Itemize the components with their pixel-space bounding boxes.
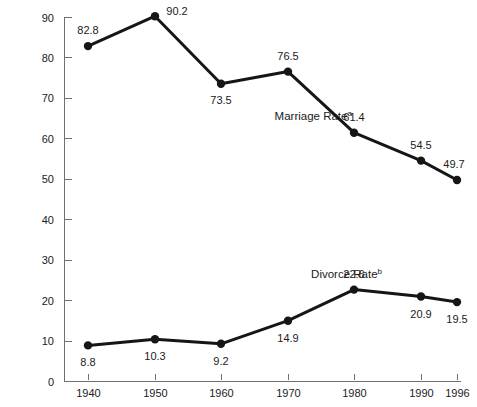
data-point-marker[interactable] [350, 285, 358, 293]
line-chart: 0102030405060708090194019501960197019801… [0, 0, 477, 407]
data-point-marker[interactable] [453, 176, 461, 184]
series-annotation-label: Marriage Ratea [275, 109, 353, 123]
data-point-marker[interactable] [284, 317, 292, 325]
y-axis-tick-label: 50 [42, 173, 54, 185]
data-point-label: 14.9 [277, 332, 298, 344]
data-point-label: 90.2 [166, 5, 187, 17]
data-point-marker[interactable] [84, 42, 92, 50]
y-axis-tick-label: 0 [48, 376, 54, 388]
data-point-label: 54.5 [410, 139, 431, 151]
data-point-marker[interactable] [350, 129, 358, 137]
y-axis-tick-label: 90 [42, 12, 54, 24]
data-point-marker[interactable] [217, 80, 225, 88]
x-axis-tick-label: 1996 [445, 387, 469, 399]
data-point-marker[interactable] [151, 12, 159, 20]
y-axis-tick-label: 10 [42, 335, 54, 347]
data-point-label: 82.8 [77, 24, 98, 36]
y-axis-tick-label: 70 [42, 92, 54, 104]
series-line-1 [88, 16, 457, 180]
x-axis-tick-label: 1970 [276, 387, 300, 399]
x-axis-tick-label: 1950 [143, 387, 167, 399]
data-point-label: 76.5 [277, 50, 298, 62]
data-point-marker[interactable] [217, 340, 225, 348]
series-annotation-label: Divorce Rateb [311, 266, 382, 280]
data-point-marker[interactable] [417, 156, 425, 164]
series-annotation-footnote: b [378, 266, 383, 275]
series-annotation-name: Marriage Rate [275, 110, 348, 122]
series-annotation-footnote: a [347, 109, 352, 118]
y-axis-tick-label: 80 [42, 52, 54, 64]
series-1: 82.890.273.576.561.454.549.7Marriage Rat… [77, 5, 464, 184]
data-point-label: 49.7 [443, 158, 464, 170]
series-annotation-name: Divorce Rate [311, 268, 377, 280]
x-axis-tick-label: 1980 [342, 387, 366, 399]
series-2: 8.810.39.214.922.620.919.5Divorce Rateb [80, 266, 467, 368]
y-axis-tick-label: 20 [42, 295, 54, 307]
x-axis-tick-label: 1990 [409, 387, 433, 399]
data-point-marker[interactable] [453, 298, 461, 306]
x-axis-tick-label: 1940 [76, 387, 100, 399]
data-point-marker[interactable] [151, 335, 159, 343]
y-axis-tick-label: 40 [42, 214, 54, 226]
chart-canvas: 0102030405060708090194019501960197019801… [0, 0, 477, 407]
data-point-marker[interactable] [84, 341, 92, 349]
data-point-label: 73.5 [210, 94, 231, 106]
y-axis-tick-label: 60 [42, 133, 54, 145]
data-point-label: 19.5 [446, 313, 467, 325]
data-point-marker[interactable] [417, 292, 425, 300]
x-axis-tick-label: 1960 [209, 387, 233, 399]
series-line-2 [88, 290, 457, 346]
y-axis-tick-label: 30 [42, 254, 54, 266]
data-point-marker[interactable] [284, 67, 292, 75]
data-point-label: 10.3 [144, 350, 165, 362]
data-point-label: 8.8 [80, 356, 95, 368]
data-point-label: 20.9 [410, 308, 431, 320]
data-point-label: 9.2 [213, 355, 228, 367]
